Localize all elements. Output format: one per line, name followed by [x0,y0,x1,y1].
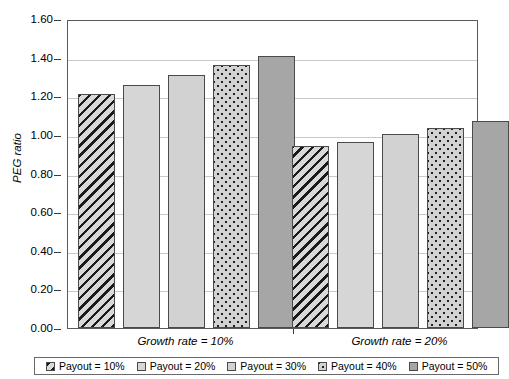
plot-area [67,20,478,329]
y-axis-tick-label: 0.60 [31,207,53,219]
x-axis-group-label: Growth rate = 10% [137,335,233,347]
bar [337,142,374,328]
y-axis-tick-mark [54,97,61,98]
x-axis-group-separator-tick [293,329,294,334]
bar [213,65,250,328]
y-axis-tick-label: 1.20 [31,92,53,104]
y-axis-tick-mark [54,213,61,214]
legend-item: Payout = 50% [409,361,488,372]
legend-label: Payout = 50% [422,361,488,372]
legend-label: Payout = 30% [240,361,306,372]
bar [123,85,160,328]
legend-swatch [318,362,327,371]
y-axis-tick-mark [54,290,61,291]
y-axis-tick-mark [54,252,61,253]
y-axis-tick-mark [54,175,61,176]
y-axis-tick-label: 0.00 [31,323,53,335]
y-axis-tick-label: 0.40 [31,246,53,258]
bar [292,146,329,328]
y-axis-tick-mark [54,20,61,21]
legend-item: Payout = 30% [227,361,306,372]
legend-label: Payout = 10% [59,361,125,372]
legend-swatch [46,362,55,371]
legend-label: Payout = 20% [150,361,216,372]
y-axis-tick-mark [54,136,61,137]
legend-label: Payout = 40% [331,361,397,372]
bar [78,94,115,328]
chart-legend: Payout = 10%Payout = 20%Payout = 30%Payo… [34,357,499,375]
legend-item: Payout = 40% [318,361,397,372]
bar [382,134,419,328]
legend-item: Payout = 20% [137,361,216,372]
bar [258,56,295,328]
legend-swatch [409,362,418,371]
y-axis-tick-mark [54,329,61,330]
legend-swatch [227,362,236,371]
bar [472,121,509,328]
y-axis-tick-mark [54,59,61,60]
y-axis-tick-label: 1.60 [31,14,53,26]
y-axis-tick-label: 1.40 [31,53,53,65]
y-axis: 0.000.200.400.600.801.001.201.401.60 [0,0,67,349]
x-axis-group-label: Growth rate = 20% [351,335,447,347]
legend-swatch [137,362,146,371]
y-axis-tick-label: 0.20 [31,285,53,297]
y-axis-tick-label: 1.00 [31,130,53,142]
legend-item: Payout = 10% [46,361,125,372]
y-axis-tick-label: 0.80 [31,169,53,181]
bar [427,128,464,328]
bar [168,75,205,328]
